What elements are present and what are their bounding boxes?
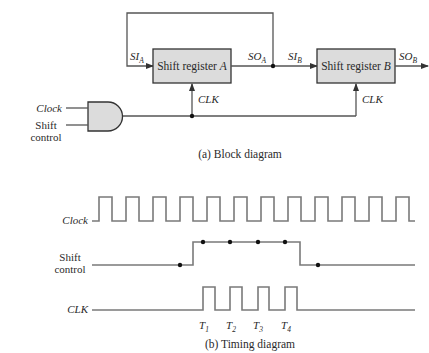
pulse-label-t4: T4 — [281, 319, 291, 334]
timing-shift-label-2: control — [54, 263, 85, 275]
and-gate-icon — [88, 102, 123, 131]
clk-waveform — [92, 287, 415, 310]
sample-dots — [178, 240, 320, 267]
si-a-label: SIA — [130, 50, 144, 65]
gate-clock-label: Clock — [36, 102, 63, 114]
block-diagram-caption: (a) Block diagram — [198, 148, 282, 161]
shift-control-waveform — [92, 242, 415, 265]
gate-shift-label-1: Shift — [35, 119, 56, 131]
clk-a-label: CLK — [198, 93, 219, 105]
timing-diagram: Clock Shift control CLK T1 T2 T3 T4 (b) … — [54, 197, 415, 351]
shift-register-a-label: Shift register A — [157, 60, 228, 73]
shift-register-b-label: Shift register B — [321, 60, 391, 73]
block-diagram: Shift register A SIA SOA SIB Shift regis… — [30, 13, 428, 161]
timing-shift-label-1: Shift — [59, 251, 80, 263]
timing-clock-label: Clock — [62, 214, 89, 226]
clock-waveform — [92, 197, 415, 221]
clk-b-label: CLK — [362, 93, 383, 105]
junction-dot-so-a — [271, 64, 275, 68]
timing-clk-label: CLK — [67, 303, 88, 315]
so-a-label: SOA — [248, 50, 266, 65]
junction-dot-clk — [190, 114, 194, 118]
pulse-label-t1: T1 — [199, 319, 209, 334]
pulse-label-t3: T3 — [253, 319, 263, 334]
si-b-label: SIB — [288, 50, 302, 65]
shift-register-figure: Shift register A SIA SOA SIB Shift regis… — [0, 0, 429, 353]
gate-shift-label-2: control — [30, 131, 61, 143]
timing-diagram-caption: (b) Timing diagram — [205, 338, 295, 351]
so-b-label: SOB — [399, 50, 417, 65]
pulse-label-t2: T2 — [226, 319, 236, 334]
